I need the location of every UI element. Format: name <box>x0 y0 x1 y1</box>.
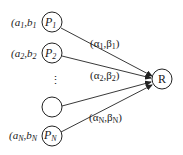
edge-pn-r <box>61 85 152 132</box>
node-r: R <box>152 69 172 89</box>
node-p1: P1 <box>42 12 62 32</box>
param-label-p2: (a2,b2 <box>11 47 36 61</box>
node-pn: PN <box>42 126 62 146</box>
edge-label-2: (α2,β2) <box>90 69 120 83</box>
edge-blank-r <box>62 82 151 106</box>
node-blank <box>42 97 62 117</box>
param-label-p1: (a1,b1 <box>11 16 36 30</box>
edge-label-n: (αN,βN) <box>89 111 122 125</box>
ellipsis-vertical: ⋮ <box>50 74 61 86</box>
node-p2: P2 <box>42 43 62 63</box>
network-diagram: P1 (a1,b1 P2 (a2,b2 ⋮ PN (aN,bN R (α1,β1… <box>0 0 183 155</box>
param-label-pn: (aN,bN <box>9 129 38 143</box>
svg-text:R: R <box>158 72 166 86</box>
edge-label-1: (α1,β1) <box>90 37 120 51</box>
